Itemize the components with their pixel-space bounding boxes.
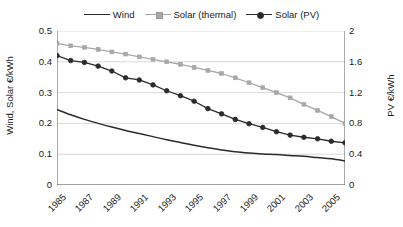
x-tick-label-1995: 1995 [174, 192, 205, 223]
data-point [329, 115, 333, 119]
x-tick-label-1989: 1989 [92, 192, 123, 223]
data-point [178, 93, 183, 98]
data-point [247, 81, 251, 85]
data-point [137, 55, 141, 59]
x-tick-label-2001: 2001 [256, 192, 287, 223]
data-point [343, 141, 345, 146]
y-axis-right-title-text: PV €/kWh [385, 74, 396, 116]
data-point [329, 139, 334, 144]
data-point [316, 109, 320, 113]
series-line [57, 43, 345, 123]
data-point [260, 125, 265, 130]
x-tick-label-1987: 1987 [64, 192, 95, 223]
y-tick-left-3: 0.2 [39, 118, 52, 128]
y-tick-right-4: 0.4 [349, 149, 362, 159]
x-tick-label-1999: 1999 [229, 192, 260, 223]
y-axis-right-title: PV €/kWh [383, 0, 397, 190]
line-swatch-icon [84, 10, 110, 20]
legend-item-solar-pv: Solar (PV) [246, 10, 319, 20]
data-point [151, 57, 155, 61]
line-circle-swatch-icon [246, 10, 272, 20]
data-point [57, 41, 59, 45]
y-tick-left-1: 0.4 [39, 57, 52, 67]
y-tick-left-4: 0.1 [39, 149, 52, 159]
data-point [233, 117, 238, 122]
data-point [123, 76, 128, 81]
x-tick-label-2003: 2003 [284, 192, 315, 223]
y-tick-left-2: 0.3 [39, 88, 52, 98]
series-wind [57, 110, 345, 161]
data-point [192, 99, 197, 104]
data-point [302, 135, 307, 140]
y-axis-left-ticks: 0.5 0.4 0.3 0.2 0.1 0 [16, 0, 52, 190]
y-axis-left-title: Wind, Solar €/kWh [2, 0, 16, 190]
x-axis-ticks: 1985198719891991199319951997199920012003… [0, 186, 403, 227]
data-point [96, 64, 101, 69]
chart-legend: Wind Solar (thermal) Solar (PV) [0, 6, 403, 24]
y-axis-right-ticks: 2 1.6 1.2 0.8 0.4 0 [349, 0, 381, 190]
legend-item-wind: Wind [84, 10, 135, 20]
data-point [288, 133, 293, 138]
x-tick-label-1985: 1985 [37, 192, 68, 223]
data-point [83, 45, 87, 49]
line-square-swatch-icon [145, 10, 171, 20]
x-tick-label-1991: 1991 [119, 192, 150, 223]
data-point [110, 69, 115, 74]
legend-label-solar-pv: Solar (PV) [275, 10, 319, 20]
data-point [165, 60, 169, 64]
data-point [302, 102, 306, 106]
data-point [315, 137, 320, 142]
y-tick-right-2: 1.2 [349, 88, 362, 98]
y-tick-right-0: 2 [349, 26, 354, 36]
chart-figure: Wind Solar (thermal) Solar (PV) Wind, So… [0, 0, 403, 227]
chart-canvas [57, 31, 345, 185]
legend-label-wind: Wind [113, 10, 135, 20]
y-axis-left-title-text: Wind, Solar €/kWh [4, 56, 15, 135]
x-tick-label-1997: 1997 [202, 192, 233, 223]
data-point [68, 58, 73, 63]
data-point [233, 76, 237, 80]
data-point [124, 52, 128, 56]
data-point [261, 86, 265, 90]
data-point [57, 53, 59, 58]
data-point [164, 88, 169, 93]
data-point [69, 44, 73, 48]
data-point [288, 96, 292, 100]
data-point [151, 83, 156, 88]
data-point [343, 122, 345, 126]
data-point [220, 72, 224, 76]
data-point [219, 112, 224, 117]
data-point [275, 91, 279, 95]
legend-item-solar-thermal: Solar (thermal) [145, 10, 237, 20]
data-point [192, 65, 196, 69]
x-tick-label-1993: 1993 [147, 192, 178, 223]
series-solar-thermal [57, 41, 345, 125]
series-solar-pv [57, 53, 345, 145]
y-tick-left-0: 0.5 [39, 26, 52, 36]
data-point [247, 121, 252, 126]
y-tick-right-1: 1.6 [349, 57, 362, 67]
x-tick-label-2005: 2005 [311, 192, 342, 223]
legend-label-solar-thermal: Solar (thermal) [174, 10, 237, 20]
y-tick-right-3: 0.8 [349, 118, 362, 128]
data-point [179, 62, 183, 66]
data-point [206, 69, 210, 73]
data-point [96, 48, 100, 52]
data-point [274, 129, 279, 134]
series-line [57, 110, 345, 161]
data-point [110, 50, 114, 54]
data-point [206, 106, 211, 111]
data-point [82, 60, 87, 65]
data-point [137, 78, 142, 83]
plot-area [57, 31, 345, 185]
